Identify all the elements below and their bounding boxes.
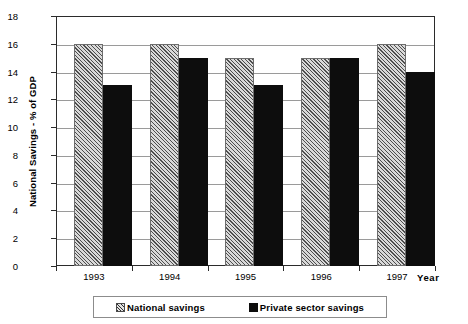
x-tick-mark [435,266,436,271]
y-tick-label: 16 [0,38,18,49]
legend: National savings Private sector savings [93,296,387,318]
bar-national-1996 [301,58,330,266]
y-tick-label: 6 [0,177,18,188]
bar-private-1997 [406,72,435,266]
x-tick-mark [283,266,284,271]
x-tick-label-1994: 1994 [159,271,180,282]
x-tick-label-1993: 1993 [83,271,104,282]
bar-national-1995 [225,58,254,266]
bar-national-1994 [150,44,179,266]
x-tick-label-1995: 1995 [235,271,256,282]
y-tick-label: 18 [0,11,18,22]
bar-national-1997 [377,44,406,266]
bars-layer [56,16,435,266]
legend-item-national-savings: National savings [116,302,205,313]
x-tick-mark [132,266,133,271]
x-tick-label-1996: 1996 [311,271,332,282]
y-tick-label: 4 [0,205,18,216]
x-axis-title: Year [417,272,439,283]
bar-chart: National Savings - % of GDP 18 16 14 12 … [0,0,468,324]
x-tick-mark [359,266,360,271]
bar-private-1996 [330,58,359,266]
x-tick-mark [208,266,209,271]
y-axis-ticks: 18 16 14 12 10 8 6 4 2 0 [0,0,56,324]
legend-item-private-sector-savings: Private sector savings [249,302,364,313]
legend-label: National savings [127,302,205,313]
y-tick-label: 10 [0,122,18,133]
y-tick-label: 12 [0,94,18,105]
bar-private-1993 [103,85,132,266]
x-tick-label-1997: 1997 [387,271,408,282]
bar-private-1995 [254,85,283,266]
hatched-square-swatch-icon [116,303,125,312]
bar-national-1993 [74,44,103,266]
bar-private-1994 [179,58,208,266]
y-tick-label: 2 [0,233,18,244]
y-tick-label: 14 [0,66,18,77]
filled-square-swatch-icon [249,303,258,312]
y-tick-label: 0 [0,261,18,272]
legend-label: Private sector savings [260,302,364,313]
y-tick-label: 8 [0,149,18,160]
x-tick-mark [56,266,57,271]
